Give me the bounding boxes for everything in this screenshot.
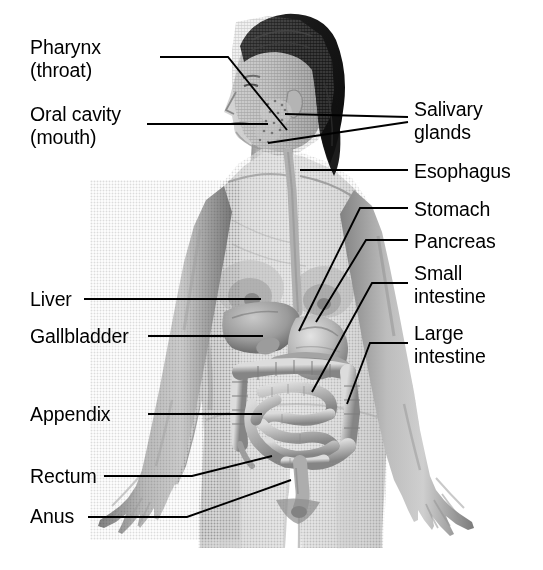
label-esophagus: Esophagus	[414, 160, 511, 183]
label-large-intestine: Large intestine	[414, 322, 486, 368]
digestive-system-figure: Pharynx (throat) Oral cavity (mouth) Liv…	[0, 0, 543, 570]
left-arm	[90, 180, 240, 540]
label-anus: Anus	[30, 505, 74, 528]
label-pancreas: Pancreas	[414, 230, 496, 253]
label-rectum: Rectum	[30, 465, 97, 488]
label-liver: Liver	[30, 288, 72, 311]
label-appendix: Appendix	[30, 403, 111, 426]
label-gallbladder: Gallbladder	[30, 325, 129, 348]
label-salivary-glands: Salivary glands	[414, 98, 483, 144]
label-small-intestine: Small intestine	[414, 262, 486, 308]
label-pharynx: Pharynx (throat)	[30, 36, 101, 82]
label-stomach: Stomach	[414, 198, 490, 221]
label-oral-cavity: Oral cavity (mouth)	[30, 103, 121, 149]
